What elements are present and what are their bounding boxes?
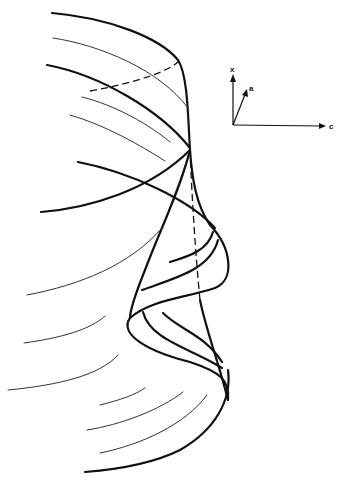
fold-strand-4	[163, 313, 222, 362]
thin-contour-5	[24, 316, 105, 343]
axis-x-label: x	[230, 65, 235, 74]
surface-contour-2	[47, 65, 190, 148]
axis-a-arrowhead	[242, 89, 248, 97]
thin-contour-3	[70, 115, 165, 161]
thin-contour-6	[8, 355, 118, 390]
surface-contour-3	[78, 162, 215, 228]
axis-a-line	[233, 92, 246, 125]
surface-top-contour	[52, 13, 210, 225]
surface-contour-4	[41, 150, 190, 212]
axis-a-label: a	[249, 84, 254, 93]
thin-contour-4	[27, 228, 162, 295]
surface-bottom-contour	[85, 370, 229, 472]
thin-contour-7	[100, 388, 145, 405]
axis-c-line	[233, 125, 322, 126]
axis-x-arrowhead	[230, 74, 236, 82]
thin-contour-8	[87, 392, 183, 430]
hidden-vertical-line	[190, 150, 200, 300]
thin-contour-2	[82, 97, 170, 142]
surface-diagram: x a c	[0, 0, 346, 484]
thin-contour-1	[53, 38, 188, 108]
axis-c-arrowhead	[319, 123, 326, 129]
fold-strand-1	[170, 232, 213, 262]
axes-triad: x a c	[230, 65, 334, 131]
axis-c-label: c	[329, 122, 334, 131]
